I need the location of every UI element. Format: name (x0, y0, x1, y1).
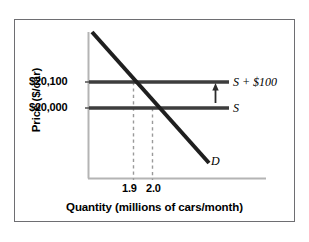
demand-label: D (211, 155, 220, 167)
supply-shifted-label: S + $100 (233, 76, 277, 88)
x-tick-label-2-0: 2.0 (146, 183, 161, 194)
supply-label: S (233, 102, 239, 114)
demand-line (92, 32, 209, 163)
figure-root: $20,100 $20,000 1.9 2.0 S + $100 S D Qua… (0, 0, 309, 242)
x-tick-label-1-9: 1.9 (122, 183, 137, 194)
x-axis-title: Quantity (millions of cars/month) (0, 201, 309, 213)
y-axis-title: Price ($/car) (30, 40, 42, 160)
shift-arrow-icon (212, 83, 218, 103)
